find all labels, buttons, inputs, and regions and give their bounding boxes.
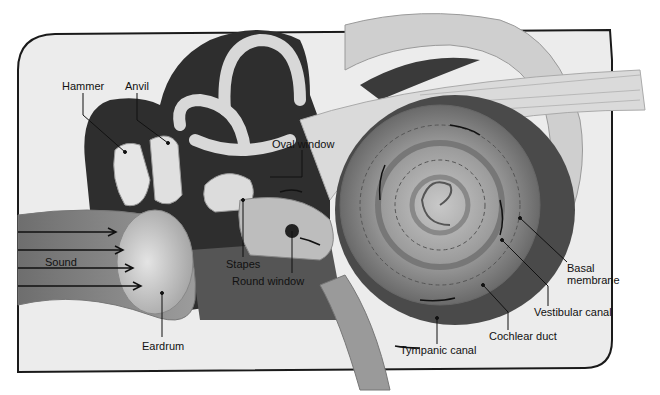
eardrum-shape	[117, 210, 193, 314]
label-basal-membrane-line2: membrane	[567, 274, 620, 286]
label-hammer: Hammer	[62, 80, 104, 92]
label-vestibular-canal: Vestibular canal	[534, 306, 612, 318]
label-basal-membrane-line1: Basal	[567, 262, 620, 274]
label-round-window: Round window	[232, 275, 304, 287]
label-anvil: Anvil	[125, 80, 149, 92]
label-sound: Sound	[45, 256, 77, 268]
label-basal-membrane: Basal membrane	[567, 262, 620, 286]
label-stapes: Stapes	[226, 258, 260, 270]
label-oval-window: Oval window	[272, 138, 334, 150]
label-cochlear-duct: Cochlear duct	[489, 330, 557, 342]
ear-diagram-illustration	[0, 0, 660, 395]
label-eardrum: Eardrum	[142, 340, 184, 352]
label-tympanic-canal: Tympanic canal	[400, 344, 476, 356]
cochlea	[335, 95, 575, 325]
